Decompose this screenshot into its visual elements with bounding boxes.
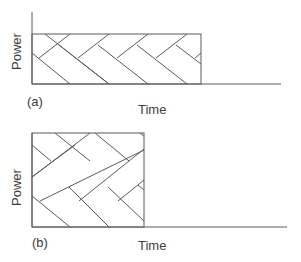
herringbone-pattern-b (32, 133, 150, 227)
panel-b (32, 133, 287, 227)
energy-block-b (32, 133, 144, 227)
diagram-canvas (0, 0, 301, 262)
panel-a (32, 12, 281, 84)
x-axis-label-a: Time (138, 103, 166, 116)
panel-label-b: (b) (32, 236, 48, 249)
herringbone-pattern-a (32, 34, 201, 84)
y-axis-label-a: Power (10, 32, 23, 72)
x-axis-label-b: Time (138, 239, 166, 252)
panel-label-a: (a) (27, 95, 43, 108)
y-axis-label-b: Power (10, 168, 23, 208)
